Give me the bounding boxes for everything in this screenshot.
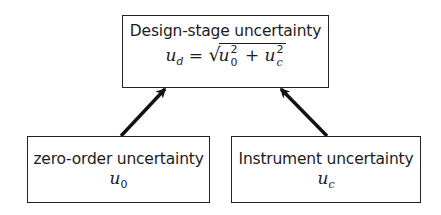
design-stage-uncertainty-box: Design-stage uncertainty ud = √u20 + u2c — [122, 15, 329, 88]
instrument-symbol-subscript: c — [328, 178, 334, 191]
formula-lhs-subscript: d — [176, 55, 183, 68]
arrow-instrument-to-design — [281, 89, 327, 136]
radicand: u20 + u2c — [219, 43, 286, 67]
term2-symbol: u — [265, 45, 276, 65]
instrument-symbol: uc — [232, 168, 420, 188]
instrument-title: Instrument uncertainty — [232, 150, 420, 168]
zero-order-title: zero-order uncertainty — [28, 150, 209, 168]
instrument-symbol-letter: u — [317, 168, 328, 188]
zero-order-symbol-letter: u — [110, 168, 121, 188]
zero-order-symbol-subscript: 0 — [120, 178, 127, 191]
term2-indices: 2c — [277, 47, 286, 67]
term2-superscript: 2 — [277, 44, 284, 55]
zero-order-symbol: u0 — [28, 168, 209, 188]
term2-subscript: c — [277, 57, 283, 68]
formula-equals: = — [189, 45, 203, 65]
term1-subscript: 0 — [231, 57, 238, 68]
design-stage-title: Design-stage uncertainty — [123, 22, 328, 40]
formula-lhs-symbol: u — [165, 45, 176, 65]
square-root: √u20 + u2c — [208, 43, 285, 67]
instrument-uncertainty-box: Instrument uncertainty uc — [231, 136, 421, 203]
formula-plus: + — [245, 45, 259, 65]
term1-symbol: u — [219, 45, 230, 65]
design-stage-formula: ud = √u20 + u2c — [123, 43, 328, 67]
arrow-zero-order-to-design — [121, 89, 165, 136]
term1-superscript: 2 — [231, 44, 238, 55]
term1-indices: 20 — [231, 47, 240, 67]
zero-order-uncertainty-box: zero-order uncertainty u0 — [27, 136, 210, 203]
